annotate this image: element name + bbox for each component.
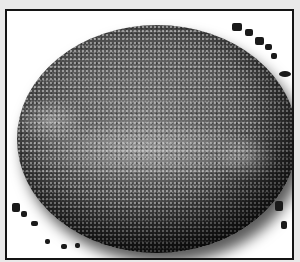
debris-speck — [232, 23, 242, 31]
debris-speck — [281, 221, 287, 229]
debris-speck — [75, 243, 80, 248]
debris-speck — [61, 244, 67, 249]
debris-speck — [279, 71, 291, 77]
debris-speck — [21, 211, 27, 217]
limb-shading — [17, 25, 294, 253]
debris-speck — [245, 29, 253, 36]
debris-speck — [255, 37, 264, 45]
debris-speck — [271, 53, 277, 59]
photo-frame — [5, 9, 294, 260]
debris-speck — [45, 239, 50, 244]
debris-speck — [12, 203, 20, 212]
debris-speck — [275, 201, 283, 211]
speckled-sphere — [17, 25, 294, 253]
debris-speck — [31, 221, 38, 226]
debris-speck — [265, 44, 272, 50]
